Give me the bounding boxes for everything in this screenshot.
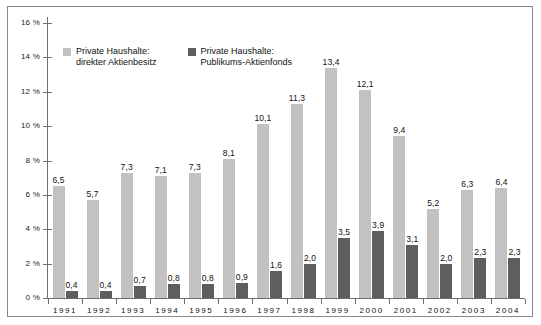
y-axis-tick-label: 10 % <box>8 121 40 131</box>
y-axis-tick <box>43 126 52 127</box>
bar <box>495 188 507 298</box>
x-axis-category-label: 1997 <box>252 306 286 315</box>
y-axis-tick-label-text: 2 % <box>10 259 40 268</box>
bar <box>325 68 337 298</box>
bar-value-label: 0,9 <box>229 272 255 282</box>
bar-value-label: 11,3 <box>284 93 310 103</box>
bar <box>134 286 146 298</box>
bar-value-label: 7,3 <box>182 162 208 172</box>
x-axis-tick <box>48 299 49 304</box>
y-axis-tick-label: 4 % <box>8 224 40 234</box>
bar-value-label: 5,7 <box>80 189 106 199</box>
bar-value-label: 10,1 <box>250 113 276 123</box>
y-axis-tick-label: 6 % <box>8 190 40 200</box>
y-axis-tick-label-text: 4 % <box>10 224 40 233</box>
bar <box>508 258 520 298</box>
x-axis-tick <box>82 299 83 304</box>
y-axis-tick <box>43 229 52 230</box>
x-axis-tick <box>218 299 219 304</box>
dark-gray-swatch <box>188 48 196 56</box>
bar-value-label: 0,4 <box>59 280 85 290</box>
bar-value-label: 3,5 <box>331 227 357 237</box>
bar <box>270 271 282 299</box>
bar-value-label: 5,2 <box>420 198 446 208</box>
x-axis-tick <box>525 299 526 304</box>
bar <box>406 245 418 298</box>
y-axis-tick-label: 14 % <box>8 52 40 62</box>
bar-value-label: 9,4 <box>386 125 412 135</box>
x-axis-category-label: 1996 <box>218 306 252 315</box>
bar-value-label: 0,8 <box>195 273 221 283</box>
y-axis-tick-label-text: 6 % <box>10 190 40 199</box>
bar-value-label: 2,3 <box>467 247 493 257</box>
x-axis-category-label: 1994 <box>150 306 184 315</box>
bar <box>372 231 384 298</box>
x-axis-category-label: 1991 <box>48 306 82 315</box>
y-axis-tick <box>43 161 52 162</box>
bar <box>236 283 248 298</box>
y-axis-tick-label: 12 % <box>8 87 40 97</box>
legend-entry: Private Haushalte: direkter Aktienbesitz <box>63 46 157 68</box>
bar-value-label: 12,1 <box>352 79 378 89</box>
x-axis-tick <box>457 299 458 304</box>
bar-value-label: 6,4 <box>488 177 514 187</box>
chart-frame: 0 %2 %4 %6 %8 %10 %12 %14 %16 % 19911992… <box>7 6 533 317</box>
y-axis-tick-label-text: 12 % <box>10 87 40 96</box>
y-axis-tick-label: 2 % <box>8 259 40 269</box>
legend-label: Private Haushalte: direkter Aktienbesitz <box>76 46 157 68</box>
bar-value-label: 13,4 <box>318 57 344 67</box>
x-axis-tick <box>355 299 356 304</box>
x-axis-tick <box>150 299 151 304</box>
bar-value-label: 7,1 <box>148 165 174 175</box>
y-axis-tick-label-text: 14 % <box>10 52 40 61</box>
y-axis-tick <box>43 23 52 24</box>
y-axis-tick-label-text: 8 % <box>10 156 40 165</box>
bar <box>393 136 405 298</box>
bar-value-label: 3,1 <box>399 234 425 244</box>
bar-value-label: 7,3 <box>114 162 140 172</box>
bar <box>461 190 473 298</box>
bar <box>168 284 180 298</box>
x-axis-category-label: 1995 <box>184 306 218 315</box>
y-axis-tick-label: 8 % <box>8 156 40 166</box>
bar <box>440 264 452 298</box>
x-axis-tick <box>116 299 117 304</box>
x-axis-category-label: 2002 <box>423 306 457 315</box>
x-axis-category-label: 1993 <box>116 306 150 315</box>
bar-value-label: 0,4 <box>93 280 119 290</box>
x-axis-tick <box>287 299 288 304</box>
y-axis-tick-label: 16 % <box>8 18 40 28</box>
x-axis-tick <box>423 299 424 304</box>
light-gray-swatch <box>63 48 71 56</box>
bar-value-label: 2,3 <box>501 247 527 257</box>
x-axis-category-label: 2001 <box>389 306 423 315</box>
bar <box>257 124 269 298</box>
legend-label: Private Haushalte: Publikums-Aktienfonds <box>201 46 293 68</box>
bar <box>304 264 316 298</box>
bar <box>338 238 350 298</box>
y-axis-tick <box>43 57 52 58</box>
bar-value-label: 2,0 <box>433 253 459 263</box>
x-axis-tick <box>252 299 253 304</box>
bar <box>291 104 303 298</box>
y-axis-tick-label-text: 0 % <box>10 293 40 302</box>
plot-area: 0 %2 %4 %6 %8 %10 %12 %14 %16 % 19911992… <box>8 7 534 318</box>
y-axis-tick-label: 0 % <box>8 293 40 303</box>
x-axis-tick <box>321 299 322 304</box>
x-axis-category-label: 1999 <box>321 306 355 315</box>
bar-value-label: 8,1 <box>216 148 242 158</box>
bar-value-label: 0,8 <box>161 273 187 283</box>
x-axis-category-label: 2004 <box>491 306 525 315</box>
x-axis-tick <box>491 299 492 304</box>
x-axis-tick <box>184 299 185 304</box>
bar-value-label: 1,6 <box>263 260 289 270</box>
y-axis-tick <box>43 264 52 265</box>
bar <box>100 291 112 298</box>
bar <box>202 284 214 298</box>
y-axis-tick-label-text: 10 % <box>10 121 40 130</box>
chart-legend: Private Haushalte: direkter Aktienbesitz… <box>63 46 292 68</box>
bar <box>474 258 486 298</box>
y-axis-tick-label-text: 16 % <box>10 18 40 27</box>
bar-value-label: 0,7 <box>127 275 153 285</box>
x-axis-tick <box>389 299 390 304</box>
